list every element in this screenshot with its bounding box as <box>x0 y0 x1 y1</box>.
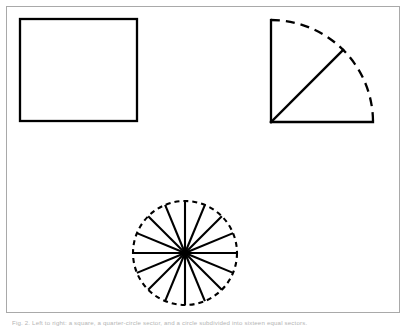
figure-border <box>6 6 400 313</box>
figure-caption: Fig. 2. Left to right: a square, a quart… <box>12 318 400 330</box>
figure-page: Fig. 2. Left to right: a square, a quart… <box>0 0 406 330</box>
